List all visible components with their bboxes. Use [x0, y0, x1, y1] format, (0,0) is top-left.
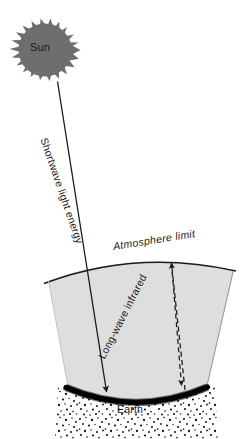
diagram-canvas: Sun Atmosphere limit Shortwave light ene…	[0, 0, 251, 439]
greenhouse-effect-diagram	[0, 0, 251, 439]
sun-label: Sun	[30, 41, 50, 53]
earth-label: Earth	[117, 403, 143, 415]
